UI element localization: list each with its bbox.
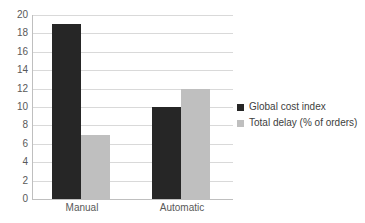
y-tick-label: 18 bbox=[0, 27, 28, 39]
y-tick-label: 8 bbox=[0, 119, 28, 131]
plot-area bbox=[32, 15, 233, 200]
y-tick-label: 4 bbox=[0, 156, 28, 168]
y-tick-label: 16 bbox=[0, 46, 28, 58]
y-tick-label: 12 bbox=[0, 83, 28, 95]
bar-automatic-series-0 bbox=[152, 107, 181, 199]
bar-manual-series-1 bbox=[81, 135, 110, 199]
y-tick-label: 10 bbox=[0, 101, 28, 113]
legend-marker-icon bbox=[237, 104, 244, 111]
legend-item: Global cost index bbox=[237, 101, 357, 113]
y-tick-label: 0 bbox=[0, 193, 28, 205]
y-tick-label: 6 bbox=[0, 138, 28, 150]
legend-label: Total delay (% of orders) bbox=[249, 117, 357, 129]
legend-marker-icon bbox=[237, 120, 244, 127]
gridline bbox=[33, 15, 233, 16]
x-category-label: Automatic bbox=[132, 202, 232, 214]
y-tick-label: 20 bbox=[0, 9, 28, 21]
y-tick-label: 2 bbox=[0, 175, 28, 187]
legend: Global cost indexTotal delay (% of order… bbox=[237, 101, 357, 129]
y-tick-label: 14 bbox=[0, 64, 28, 76]
bar-automatic-series-1 bbox=[181, 89, 210, 199]
legend-label: Global cost index bbox=[249, 101, 326, 113]
bar-chart: 02468101214161820 ManualAutomatic Global… bbox=[0, 0, 365, 223]
legend-item: Total delay (% of orders) bbox=[237, 117, 357, 129]
bar-manual-series-0 bbox=[52, 24, 81, 199]
x-category-label: Manual bbox=[32, 202, 132, 214]
